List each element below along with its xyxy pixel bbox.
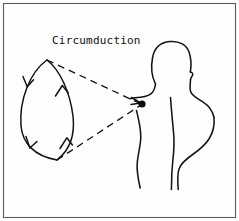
- arrow-left-lower-icon: [26, 137, 37, 149]
- arrow-right-lower-icon: [60, 138, 72, 149]
- motion-arc-right: [47, 60, 73, 160]
- torso-right-contour: [178, 118, 214, 190]
- upper-cone-line: [47, 60, 139, 103]
- ear-notch: [190, 72, 192, 80]
- torso-left-contour: [137, 111, 141, 189]
- neck-and-shoulder-left: [130, 84, 156, 99]
- shoulder-joint-dot: [138, 100, 145, 107]
- circumduction-figure: Circumduction: [0, 0, 239, 221]
- figure-canvas: Circumduction: [0, 0, 239, 221]
- arm-inner-line: [171, 98, 175, 190]
- figure-label: Circumduction: [52, 34, 141, 47]
- head-outline: [152, 42, 191, 84]
- jaw-and-neck-right: [190, 80, 214, 118]
- lower-cone-line: [57, 106, 140, 160]
- motion-arc-left: [21, 60, 57, 160]
